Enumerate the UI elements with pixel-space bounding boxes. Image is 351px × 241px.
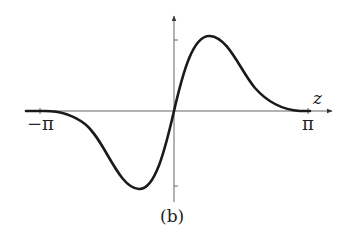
x-axis-label-z: z (313, 88, 322, 108)
x-tick-label-neg-pi: −π (27, 113, 54, 134)
curve-line (26, 36, 310, 189)
x-tick-label-pi: π (302, 113, 314, 134)
figure-caption: (b) (160, 206, 184, 226)
